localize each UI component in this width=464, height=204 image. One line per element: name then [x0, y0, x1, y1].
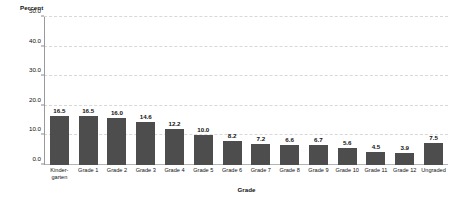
bar-series: 16.516.516.014.612.210.08.27.26.66.75.64… [45, 17, 448, 165]
bar-value-label: 7.5 [419, 134, 448, 141]
x-axis-tick-label: Ungraded [419, 167, 448, 180]
bar-chart: Percent 0.010.020.030.040.050.0 16.516.5… [0, 0, 464, 204]
x-axis-tick-label: Grade 4 [160, 167, 189, 180]
y-axis-tick-label: 0.0 [32, 155, 41, 162]
y-axis-tick-mark [41, 75, 44, 76]
bar-slot: 16.0 [103, 17, 132, 165]
bar[interactable] [338, 148, 357, 165]
x-axis-title: Grade [45, 186, 448, 194]
x-axis-tick-label: Kinder- garten [45, 167, 74, 180]
x-axis-tick-label: Grade 8 [275, 167, 304, 180]
bar-value-label: 16.5 [74, 107, 103, 114]
bar-slot: 8.2 [218, 17, 247, 165]
bar[interactable] [366, 152, 385, 165]
bar-value-label: 4.5 [362, 143, 391, 150]
bar-value-label: 16.0 [103, 109, 132, 116]
bar-value-label: 8.2 [218, 132, 247, 139]
bar[interactable] [107, 118, 126, 165]
bar[interactable] [223, 141, 242, 165]
bar[interactable] [136, 122, 155, 165]
bar[interactable] [309, 145, 328, 165]
y-axis-tick-label: 40.0 [29, 36, 41, 43]
bar-value-label: 6.6 [275, 136, 304, 143]
plot-area: 0.010.020.030.040.050.0 16.516.516.014.6… [44, 17, 448, 165]
bar-slot: 7.2 [246, 17, 275, 165]
bar-value-label: 5.6 [333, 139, 362, 146]
bar-slot: 6.7 [304, 17, 333, 165]
y-axis-tick-mark [41, 16, 44, 17]
y-axis-tick-mark [41, 134, 44, 135]
bar[interactable] [194, 135, 213, 165]
bar-value-label: 16.5 [45, 107, 74, 114]
x-axis-tick-label: Grade 5 [189, 167, 218, 180]
bar-value-label: 6.7 [304, 136, 333, 143]
bar-value-label: 12.2 [160, 120, 189, 127]
bar-slot: 4.5 [362, 17, 391, 165]
bar-slot: 16.5 [74, 17, 103, 165]
bar-slot: 16.5 [45, 17, 74, 165]
x-axis-tick-label: Grade 6 [218, 167, 247, 180]
bar[interactable] [165, 129, 184, 165]
y-axis-tick-mark [41, 104, 44, 105]
y-axis-tick-label: 30.0 [29, 66, 41, 73]
x-axis-tick-label: Grade 1 [74, 167, 103, 180]
bar-slot: 3.9 [390, 17, 419, 165]
x-axis-tick-label: Grade 11 [362, 167, 391, 180]
y-axis-tick-label: 50.0 [29, 7, 41, 14]
bar[interactable] [424, 143, 443, 165]
bar-slot: 12.2 [160, 17, 189, 165]
bar[interactable] [395, 153, 414, 165]
bar-value-label: 10.0 [189, 126, 218, 133]
x-axis-tick-label: Grade 7 [246, 167, 275, 180]
bar-slot: 7.5 [419, 17, 448, 165]
bar-slot: 5.6 [333, 17, 362, 165]
x-axis-tick-label: Grade 3 [131, 167, 160, 180]
bar-value-label: 7.2 [246, 135, 275, 142]
x-axis-tick-label: Grade 2 [103, 167, 132, 180]
bar[interactable] [50, 116, 69, 165]
x-axis-tick-labels: Kinder- gartenGrade 1Grade 2Grade 3Grade… [45, 167, 448, 180]
bar[interactable] [251, 144, 270, 165]
x-axis-tick-label: Grade 10 [333, 167, 362, 180]
bar-slot: 10.0 [189, 17, 218, 165]
bar[interactable] [79, 116, 98, 165]
y-axis-tick-mark [41, 164, 44, 165]
y-axis-tick-label: 20.0 [29, 95, 41, 102]
bar[interactable] [280, 145, 299, 165]
y-axis-tick-mark [41, 45, 44, 46]
bar-slot: 6.6 [275, 17, 304, 165]
x-axis-tick-label: Grade 9 [304, 167, 333, 180]
y-axis-tick-label: 10.0 [29, 125, 41, 132]
bar-value-label: 3.9 [390, 144, 419, 151]
x-axis-tick-label: Grade 12 [390, 167, 419, 180]
bar-value-label: 14.6 [131, 113, 160, 120]
bar-slot: 14.6 [131, 17, 160, 165]
